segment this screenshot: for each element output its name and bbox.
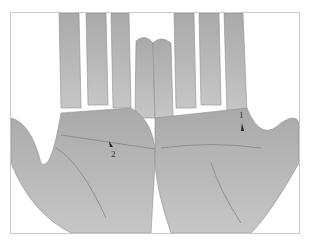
annotation-label-2: 2 [111, 150, 116, 159]
left-hand [11, 13, 155, 233]
right-hand [153, 13, 299, 233]
photo-frame: 2 1 [10, 12, 300, 234]
annotation-label-1: 1 [239, 111, 244, 120]
palms-illustration [11, 13, 299, 233]
